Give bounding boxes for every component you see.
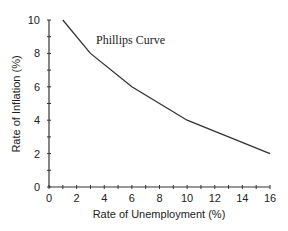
y-tick-label: 8: [34, 47, 40, 59]
chart-title: Phillips Curve: [96, 33, 165, 47]
series: [63, 20, 270, 154]
x-tick-label: 14: [236, 192, 248, 204]
phillips-curve-chart: 02468101214160246810 Phillips Curve Rate…: [0, 0, 288, 231]
x-tick-label: 0: [46, 192, 52, 204]
y-tick-label: 4: [34, 114, 40, 126]
y-tick-label: 10: [28, 14, 40, 26]
phillips-curve-line: [63, 20, 270, 154]
y-tick-label: 2: [34, 148, 40, 160]
x-tick-label: 10: [181, 192, 193, 204]
x-tick-label: 4: [101, 192, 107, 204]
y-axis-label: Rate of Inflation (%): [10, 55, 22, 152]
x-tick-label: 2: [74, 192, 80, 204]
x-tick-label: 6: [129, 192, 135, 204]
x-tick-label: 16: [264, 192, 276, 204]
x-tick-label: 8: [156, 192, 162, 204]
y-tick-label: 0: [34, 181, 40, 193]
y-tick-label: 6: [34, 81, 40, 93]
x-axis-label: Rate of Unemployment (%): [93, 208, 226, 220]
x-tick-label: 12: [209, 192, 221, 204]
